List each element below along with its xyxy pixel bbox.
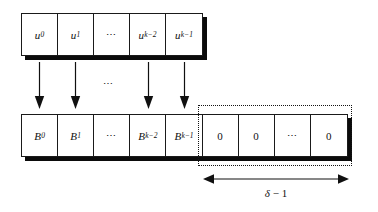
input-cell-ellipsis: ⋯: [94, 14, 130, 55]
cell-subscript-label: k−2: [144, 30, 156, 39]
cell-base-label: B: [138, 130, 145, 142]
input-cell-u1: u1: [58, 14, 94, 55]
mapping-arrow-icon-2: [70, 62, 81, 110]
zero-cell-ellipsis: ⋯: [275, 115, 311, 156]
cell-subscript-label: 1: [76, 30, 80, 39]
ellipsis-label: ⋯: [106, 29, 118, 40]
cell-base-label: B: [174, 130, 181, 142]
cell-subscript-label: k−1: [181, 131, 193, 140]
cell-base-label: 0: [326, 130, 332, 142]
cell-subscript-label: 0: [41, 131, 45, 140]
mapping-arrow-icon-4: [179, 62, 190, 110]
block-cell-Bk-1: Bk−1: [166, 115, 202, 156]
block-cell-Bk-2: Bk−2: [130, 115, 166, 156]
zero-cell-3: 0: [311, 115, 347, 156]
mapping-arrow-icon-1: [34, 62, 45, 110]
ellipsis-label: ⋯: [287, 130, 299, 141]
input-word-row: u0 u1 ⋯ uk−2 uk−1: [21, 13, 203, 56]
zero-cell-1: 0: [203, 115, 239, 156]
cell-subscript-label: k−1: [181, 30, 193, 39]
ellipsis-label: ⋯: [106, 130, 118, 141]
input-cell-uk-2: uk−2: [130, 14, 166, 55]
input-cell-u0: u0: [22, 14, 58, 55]
zero-cell-2: 0: [239, 115, 275, 156]
cell-base-label: 0: [253, 130, 259, 142]
input-cell-uk-1: uk−1: [166, 14, 202, 55]
cell-subscript-label: k−2: [145, 131, 157, 140]
delta-minus-one: − 1: [270, 187, 287, 199]
block-cell-ellipsis: ⋯: [94, 115, 130, 156]
cell-subscript-label: 0: [40, 30, 44, 39]
mapping-arrow-icon-3: [143, 62, 154, 110]
encoded-block-row: B0 B1 ⋯ Bk−2 Bk−1 0 0 ⋯ 0: [21, 114, 348, 157]
mapping-ellipsis-label: ⋯: [92, 78, 126, 89]
block-cell-B0: B0: [22, 115, 58, 156]
cell-subscript-label: 1: [77, 131, 81, 140]
cell-base-label: B: [34, 130, 41, 142]
delta-measure-label: δ − 1: [203, 187, 349, 199]
cell-base-label: B: [70, 130, 77, 142]
block-cell-B1: B1: [58, 115, 94, 156]
delta-measure-arrow-icon: [203, 172, 349, 186]
figure-canvas: u0 u1 ⋯ uk−2 uk−1: [0, 0, 378, 212]
cell-base-label: 0: [217, 130, 223, 142]
